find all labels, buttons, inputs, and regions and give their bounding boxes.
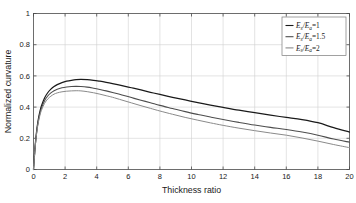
x-tick-label: 4 xyxy=(95,172,99,181)
y-tick-label: 0.2 xyxy=(20,134,30,143)
line-chart: 02468101214161820 00.20.40.60.81 Thickne… xyxy=(0,0,356,203)
x-tick-label: 6 xyxy=(126,172,130,181)
y-tick-label: 0 xyxy=(26,165,30,174)
x-tick-label: 14 xyxy=(251,172,259,181)
y-tick-label: 0.6 xyxy=(20,72,30,81)
x-tick-label: 16 xyxy=(282,172,290,181)
x-tick-label: 18 xyxy=(314,172,322,181)
x-tick-label: 12 xyxy=(219,172,227,181)
x-tick-label: 8 xyxy=(158,172,162,181)
y-tick-label: 1 xyxy=(26,9,30,18)
legend-label-1: Es/Ea=1 xyxy=(295,21,320,31)
y-axis-title: Normalized curvature xyxy=(3,50,13,134)
legend-label-3: Es/Ea=2 xyxy=(295,44,320,54)
x-tick-label: 2 xyxy=(63,172,67,181)
y-tick-label: 0.4 xyxy=(20,103,30,112)
x-tick-label: 0 xyxy=(31,172,35,181)
legend[interactable]: Es/Ea=1Es/Ea=1.5Es/Ea=2 xyxy=(282,17,346,56)
figure-container: 02468101214161820 00.20.40.60.81 Thickne… xyxy=(0,0,356,203)
x-tick-label: 10 xyxy=(187,172,195,181)
x-axis-title: Thickness ratio xyxy=(162,185,221,195)
y-tick-label: 0.8 xyxy=(20,40,30,49)
x-tick-label: 20 xyxy=(345,172,353,181)
